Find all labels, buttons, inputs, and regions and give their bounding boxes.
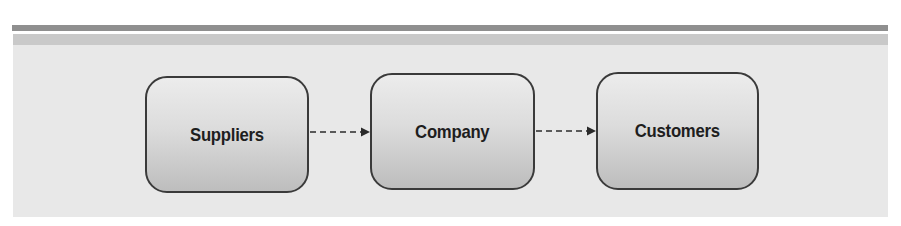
customers-label: Customers xyxy=(635,120,720,142)
top-rule-dark xyxy=(12,25,888,31)
dashed-arrow-icon xyxy=(309,127,371,137)
top-rule-light xyxy=(13,34,888,45)
dashed-arrow-icon xyxy=(535,126,597,136)
company-to-customers-arrow xyxy=(535,126,597,136)
company-label: Company xyxy=(415,121,489,143)
suppliers-node: Suppliers xyxy=(145,76,309,193)
customers-node: Customers xyxy=(596,72,759,190)
suppliers-label: Suppliers xyxy=(190,124,264,146)
company-node: Company xyxy=(370,73,535,190)
suppliers-to-company-arrow xyxy=(309,127,371,137)
